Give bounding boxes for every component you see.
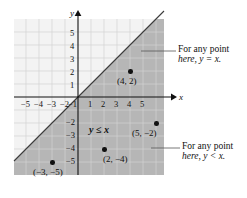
y-axis-arrow bbox=[75, 10, 82, 16]
annotation-y-less-than-x-line2: here, y < x. bbox=[182, 151, 233, 161]
x-axis-label: x bbox=[179, 92, 183, 102]
point-dot-4-2 bbox=[128, 69, 133, 74]
annotation-y-equals-x-line2: here, y = x. bbox=[178, 54, 229, 64]
x-tick-3: 3 bbox=[114, 99, 118, 109]
x-tick-5: 5 bbox=[140, 99, 144, 109]
x-axis-arrow bbox=[171, 94, 177, 101]
y-tick--4: −4 bbox=[66, 143, 75, 153]
y-tick--5: −5 bbox=[66, 156, 75, 166]
x-tick--4: −4 bbox=[34, 99, 43, 109]
y-tick-2: 2 bbox=[70, 67, 74, 77]
point-label--3--5: (−3, −5) bbox=[33, 167, 63, 177]
y-tick-1: 1 bbox=[70, 80, 74, 90]
annotation-y-equals-x-line1: For any point bbox=[178, 44, 229, 54]
point-label-4-2: (4, 2) bbox=[117, 76, 137, 86]
point-dot-5--2 bbox=[154, 121, 159, 126]
annotation-y-less-than-x-line1: For any point bbox=[182, 141, 233, 151]
x-tick-4: 4 bbox=[127, 99, 131, 109]
x-tick-2: 2 bbox=[101, 99, 105, 109]
annotation-y-less-than-x: For any point here, y < x. bbox=[182, 141, 233, 161]
x-tick--3: −3 bbox=[47, 99, 56, 109]
inequality-graph-figure: y x −5 −4 −3 −2 −1 1 2 3 4 5 5 4 3 2 1 −… bbox=[0, 0, 247, 198]
point-label-2--4: (2, −4) bbox=[103, 154, 128, 164]
point-label-5--2: (5, −2) bbox=[132, 128, 157, 138]
inequality-label: y ≤ x bbox=[89, 124, 109, 135]
x-tick--1: −1 bbox=[68, 99, 77, 109]
y-tick--2: −2 bbox=[66, 117, 75, 127]
y-tick--3: −3 bbox=[66, 130, 75, 140]
y-tick-5: 5 bbox=[70, 28, 74, 38]
y-axis-label: y bbox=[70, 8, 74, 18]
x-tick--5: −5 bbox=[21, 99, 30, 109]
annotation-y-equals-x: For any point here, y = x. bbox=[178, 44, 229, 64]
y-tick-3: 3 bbox=[70, 54, 74, 64]
point-dot--3--5 bbox=[50, 160, 55, 165]
point-dot-2--4 bbox=[102, 147, 107, 152]
y-tick-4: 4 bbox=[70, 41, 74, 51]
x-tick-1: 1 bbox=[88, 99, 92, 109]
